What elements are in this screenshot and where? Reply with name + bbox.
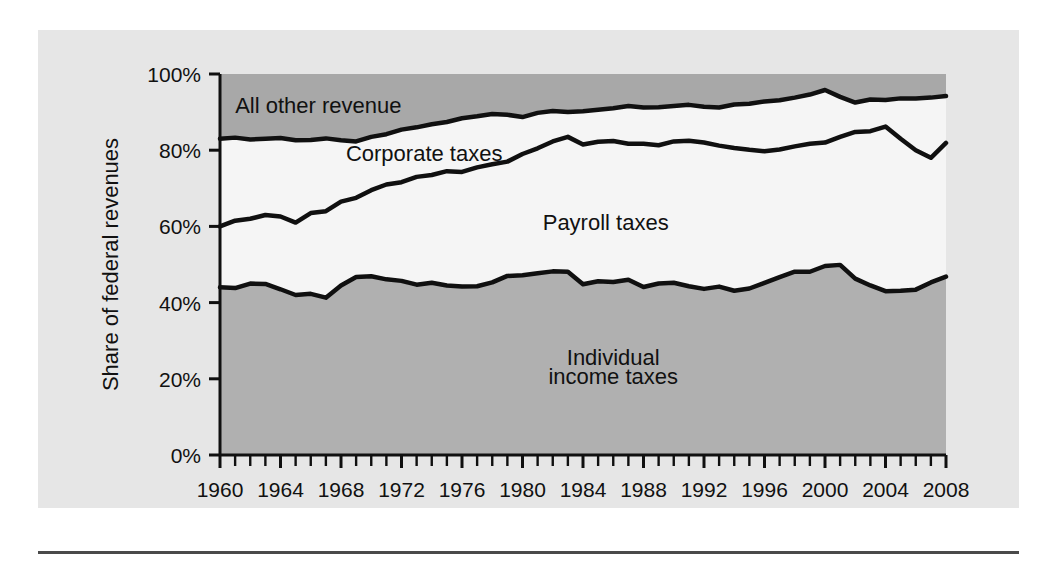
x-tick-label: 1960: [197, 478, 244, 501]
x-tick-label: 1996: [741, 478, 788, 501]
y-tick-label: 20%: [159, 368, 201, 391]
stacked-area-chart: 0%20%40%60%80%100% 196019641968197219761…: [0, 0, 1057, 568]
annotation-all-other-revenue: All other revenue: [235, 93, 401, 118]
y-tick-label: 0%: [171, 444, 201, 467]
bottom-rule: [38, 551, 1019, 554]
y-tick-label: 100%: [147, 63, 201, 86]
y-axis-ticks: [209, 74, 220, 455]
x-tick-label: 1972: [378, 478, 425, 501]
figure-root: 0%20%40%60%80%100% 196019641968197219761…: [0, 0, 1057, 568]
x-axis-tick-labels: 1960196419681972197619801984198819921996…: [197, 478, 970, 501]
x-tick-label: 1976: [439, 478, 486, 501]
x-tick-label: 1968: [318, 478, 365, 501]
annotation-individual-income-taxes-line2: income taxes: [548, 364, 678, 389]
y-tick-label: 80%: [159, 139, 201, 162]
x-tick-label: 1980: [499, 478, 546, 501]
x-tick-label: 1988: [620, 478, 667, 501]
x-tick-label: 1984: [560, 478, 607, 501]
y-tick-label: 40%: [159, 292, 201, 315]
x-tick-label: 1992: [681, 478, 728, 501]
x-tick-label: 2008: [923, 478, 970, 501]
y-axis-title: Share of federal revenues: [98, 138, 123, 391]
annotation-corporate-taxes: Corporate taxes: [346, 141, 503, 166]
y-tick-label: 60%: [159, 215, 201, 238]
x-tick-label: 2004: [862, 478, 909, 501]
x-tick-label: 2000: [802, 478, 849, 501]
y-axis-tick-labels: 0%20%40%60%80%100%: [147, 63, 201, 467]
x-axis-ticks: [220, 455, 946, 468]
x-tick-label: 1964: [257, 478, 304, 501]
annotation-payroll-taxes: Payroll taxes: [543, 210, 669, 235]
